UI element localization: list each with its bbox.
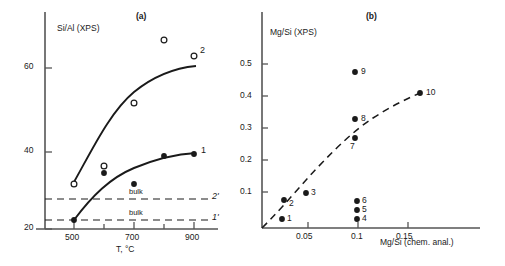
panel-a-plot: [0, 0, 252, 266]
panel-a-tag: (a): [136, 12, 146, 21]
panel-a-x-axis-title: T, °C: [116, 245, 135, 254]
bulk-label-1prime: bulk: [129, 209, 143, 217]
point-label-2: 2: [289, 199, 294, 208]
bulk-label-2prime: bulk: [129, 188, 143, 196]
bulk-series-label-2prime: 2': [212, 192, 219, 201]
panel-a-y-ticks: [45, 68, 52, 229]
point-label-6: 6: [362, 196, 367, 205]
panel-a-ytick-40: 40: [24, 146, 33, 155]
figure-container: (a) Si/Al (XPS) T, °C 60 40 20 500 700 9…: [0, 0, 505, 266]
bulk-series-label-1prime: 1': [212, 213, 219, 222]
panel-a-xtick-700: 700: [125, 233, 139, 242]
panel-b-plot: [240, 0, 505, 266]
panel-b-tag: (b): [366, 12, 377, 21]
point-label-8: 8: [361, 114, 366, 123]
point-label-1: 1: [287, 214, 292, 223]
panel-a: (a) Si/Al (XPS) T, °C 60 40 20 500 700 9…: [0, 0, 252, 266]
panel-a-xtick-500: 500: [65, 233, 79, 242]
point-label-9: 9: [361, 67, 366, 76]
panel-b-ytick-0.1: 0.1: [240, 187, 252, 196]
point-label-7: 7: [350, 142, 355, 151]
curve-label-2: 2: [200, 46, 205, 55]
point-label-3: 3: [311, 188, 316, 197]
panel-a-xtick-900: 900: [185, 233, 199, 242]
panel-b-ytick-0.3: 0.3: [240, 123, 252, 132]
panel-b-xtick-0.15: 0.15: [396, 232, 413, 241]
panel-b-ytick-0.4: 0.4: [240, 91, 252, 100]
panel-b-x-axis-title: Mg/Si (chem. anal.): [380, 238, 454, 247]
panel-b-xtick-0.05: 0.05: [296, 232, 313, 241]
panel-a-ytick-20: 20: [24, 223, 33, 232]
panel-b-xtick-0.1: 0.1: [351, 232, 363, 241]
panel-b-y-ticks: [262, 64, 268, 192]
panel-b-ytick-0.2: 0.2: [240, 155, 252, 164]
point-label-4: 4: [362, 214, 367, 223]
panel-b-ytick-0.5: 0.5: [240, 59, 252, 68]
curve-2: [74, 66, 196, 182]
point-label-5: 5: [362, 205, 367, 214]
point-label-10: 10: [426, 88, 435, 97]
panel-b-x-ticks: [308, 222, 408, 228]
panel-b-trend-line: [262, 93, 420, 228]
series-2-markers: [71, 37, 197, 187]
panel-a-x-ticks: [74, 222, 194, 229]
panel-a-y-axis-title: Si/Al (XPS): [57, 24, 100, 33]
panel-a-ytick-60: 60: [24, 62, 33, 71]
panel-b: (b) Mg/Si (XPS) Mg/Si (chem. anal.) 0.1 …: [240, 0, 505, 266]
panel-b-y-axis-title: Mg/Si (XPS): [270, 28, 317, 37]
curve-label-1: 1: [201, 146, 206, 155]
